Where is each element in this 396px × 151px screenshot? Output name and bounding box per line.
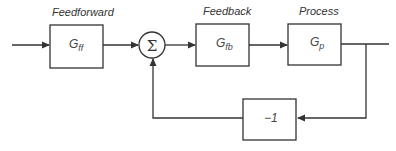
sigma-symbol: Σ bbox=[147, 37, 158, 55]
feedback-header: Feedback bbox=[203, 5, 251, 17]
process-transfer-function: Gp bbox=[310, 35, 324, 51]
feedback-branch-arrow bbox=[298, 44, 366, 118]
feedforward-header: Feedforward bbox=[52, 6, 114, 18]
block-diagram-canvas: Σ bbox=[0, 0, 396, 151]
process-header: Process bbox=[299, 5, 339, 17]
feedback-transfer-function: Gfb bbox=[216, 36, 233, 52]
feedforward-transfer-function: Gff bbox=[69, 37, 83, 53]
return-to-sum-arrow bbox=[153, 59, 243, 118]
negation-gain: −1 bbox=[264, 111, 278, 125]
